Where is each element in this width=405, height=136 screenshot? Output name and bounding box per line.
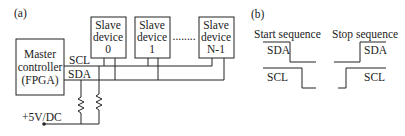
- master-line3: (FPGA): [21, 74, 58, 87]
- start-scl-label: SCL: [267, 71, 288, 83]
- slaveN1-line1: Slave: [203, 19, 229, 31]
- slaveN1-line2: device: [201, 31, 231, 43]
- supply-label: +5V/DC: [22, 111, 62, 123]
- ellipsis: ........: [173, 30, 196, 42]
- panel-a-label: (a): [14, 7, 27, 20]
- master-line2: controller: [18, 61, 63, 73]
- panel-b-label: (b): [251, 8, 265, 21]
- slave1-line3: 1: [149, 43, 155, 55]
- master-line1: Master: [24, 48, 56, 60]
- stop-scl-label: SCL: [364, 71, 385, 83]
- slave1-line1: Slave: [139, 19, 165, 31]
- i2c-diagram: (a) Master controller (FPGA) Slave devic…: [0, 0, 405, 136]
- scl-label: SCL: [69, 54, 90, 66]
- sda-pullup-resistor: [78, 95, 84, 124]
- slave0-line2: device: [93, 31, 123, 43]
- slaveN1-line3: N-1: [207, 43, 225, 55]
- slave0-line3: 0: [105, 43, 111, 55]
- start-sda-label: SDA: [267, 44, 291, 56]
- slave1-line2: device: [137, 31, 167, 43]
- sda-label: SDA: [68, 68, 92, 80]
- scl-pullup-resistor: [96, 92, 102, 124]
- slave0-line1: Slave: [95, 19, 121, 31]
- stop-sequence-title: Stop sequence: [332, 28, 398, 41]
- stop-sda-label: SDA: [364, 44, 388, 56]
- start-sequence-title: Start sequence: [254, 28, 321, 41]
